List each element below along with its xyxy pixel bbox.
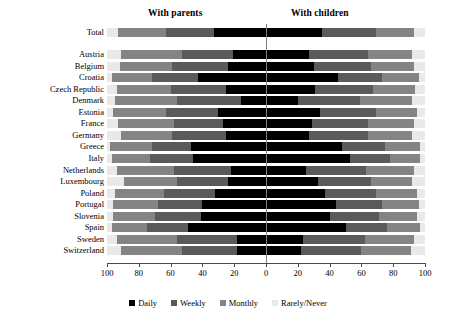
bar-segment-left-monthly: [118, 119, 174, 128]
legend-label: Weekly: [180, 298, 206, 308]
legend-item: Daily: [129, 297, 157, 308]
bar-segment-left-weekly: [177, 177, 228, 186]
bar-segment-right-monthly: [387, 223, 420, 232]
value-axis: 10080604020020406080100: [107, 263, 425, 264]
axis-tick-label: 100: [410, 268, 440, 278]
bar-segment-right-daily: [266, 119, 312, 128]
bar-segment-left-monthly: [113, 212, 154, 221]
axis-tick: [234, 263, 235, 267]
category-label: Slovenia: [0, 212, 104, 221]
bar-segment-right-monthly: [385, 142, 420, 151]
zero-axis-line: [266, 24, 267, 263]
bar-segment-right-rarelynever: [420, 223, 425, 232]
bar-segment-left-weekly: [177, 235, 237, 244]
axis-tick: [202, 263, 203, 267]
bar-segment-right-monthly: [365, 235, 414, 244]
axis-tick: [107, 263, 108, 267]
bar-segment-left-daily: [233, 50, 266, 59]
bar-segment-right-daily: [266, 108, 320, 117]
bar-segment-left-rarelynever: [107, 73, 112, 82]
chart-container: With parents With children TotalAustriaB…: [0, 0, 456, 317]
bar-segment-right-weekly: [315, 85, 372, 94]
bar-segment-left-weekly: [158, 200, 203, 209]
legend-item: Weekly: [171, 297, 206, 308]
legend-item: Monthly: [220, 297, 258, 308]
bar-segment-left-monthly: [121, 50, 181, 59]
axis-tick: [298, 263, 299, 267]
bar-segment-right-weekly: [301, 246, 361, 255]
category-label: Croatia: [0, 73, 104, 82]
legend-swatch-icon: [272, 300, 278, 306]
legend-label: Daily: [138, 298, 157, 308]
bar-segment-right-monthly: [371, 177, 412, 186]
bar-segment-right-weekly: [342, 142, 385, 151]
bar-segment-left-rarelynever: [107, 166, 117, 175]
bar-segment-left-daily: [241, 96, 266, 105]
bar-segment-left-weekly: [172, 131, 226, 140]
panel-header-with-parents: With parents: [148, 8, 202, 18]
bar-segment-right-weekly: [330, 212, 379, 221]
bar-segment-left-rarelynever: [107, 246, 121, 255]
axis-tick-label: 0: [251, 268, 281, 278]
category-label: Spain: [0, 223, 104, 232]
bar-segment-right-weekly: [312, 119, 368, 128]
bar-segment-left-weekly: [174, 166, 231, 175]
bar-segment-right-daily: [266, 131, 309, 140]
bar-segment-left-weekly: [172, 62, 228, 71]
bar-segment-right-monthly: [382, 200, 419, 209]
bar-segment-left-weekly: [174, 119, 223, 128]
category-label: Total: [0, 28, 104, 37]
bar-segment-left-rarelynever: [107, 154, 112, 163]
bar-segment-left-daily: [223, 119, 266, 128]
bar-segment-right-rarelynever: [417, 108, 425, 117]
bar-segment-left-weekly: [150, 154, 193, 163]
bar-segment-left-rarelynever: [107, 62, 120, 71]
bar-segment-left-monthly: [121, 246, 181, 255]
bar-segment-left-daily: [237, 246, 266, 255]
bar-segment-left-monthly: [118, 28, 166, 37]
category-label: Austria: [0, 50, 104, 59]
bar-segment-right-weekly: [322, 28, 376, 37]
bar-segment-right-monthly: [376, 189, 417, 198]
bar-segment-left-weekly: [166, 108, 218, 117]
bar-segment-left-monthly: [113, 200, 158, 209]
bar-segment-right-rarelynever: [411, 246, 425, 255]
bar-segment-right-weekly: [318, 177, 370, 186]
bar-segment-left-monthly: [124, 177, 176, 186]
axis-tick: [266, 263, 267, 267]
bar-segment-right-monthly: [382, 73, 419, 82]
bar-segment-right-monthly: [368, 50, 413, 59]
bar-segment-right-rarelynever: [414, 28, 425, 37]
bar-segment-left-daily: [237, 235, 266, 244]
category-label: Portugal: [0, 200, 104, 209]
bar-segment-left-daily: [231, 166, 266, 175]
bar-segment-right-rarelynever: [417, 189, 425, 198]
bar-segment-left-rarelynever: [107, 189, 115, 198]
bar-segment-left-rarelynever: [107, 200, 113, 209]
bar-segment-right-monthly: [368, 119, 414, 128]
axis-tick-label: 20: [219, 268, 249, 278]
bar-segment-left-weekly: [171, 85, 227, 94]
bar-segment-left-weekly: [182, 246, 238, 255]
bar-segment-right-daily: [266, 166, 306, 175]
bar-segment-left-weekly: [164, 189, 215, 198]
bar-segment-left-daily: [228, 177, 266, 186]
axis-tick: [393, 263, 394, 267]
axis-tick-label: 100: [92, 268, 122, 278]
bar-segment-right-daily: [266, 62, 314, 71]
bar-segment-left-rarelynever: [107, 108, 113, 117]
chart-legend: DailyWeeklyMonthlyRarely/Never: [0, 296, 456, 308]
bar-segment-right-daily: [266, 154, 350, 163]
panel-header-with-children: With children: [291, 8, 349, 18]
bar-segment-left-rarelynever: [107, 28, 118, 37]
axis-tick: [139, 263, 140, 267]
legend-label: Rarely/Never: [281, 298, 327, 308]
bar-segment-right-weekly: [320, 108, 376, 117]
axis-tick-label: 80: [124, 268, 154, 278]
category-label: Italy: [0, 154, 104, 163]
bar-segment-left-monthly: [110, 142, 151, 151]
axis-tick-label: 60: [346, 268, 376, 278]
category-label: Luxembourg: [0, 177, 104, 186]
bar-segment-left-monthly: [112, 223, 147, 232]
bar-segment-left-daily: [226, 85, 266, 94]
